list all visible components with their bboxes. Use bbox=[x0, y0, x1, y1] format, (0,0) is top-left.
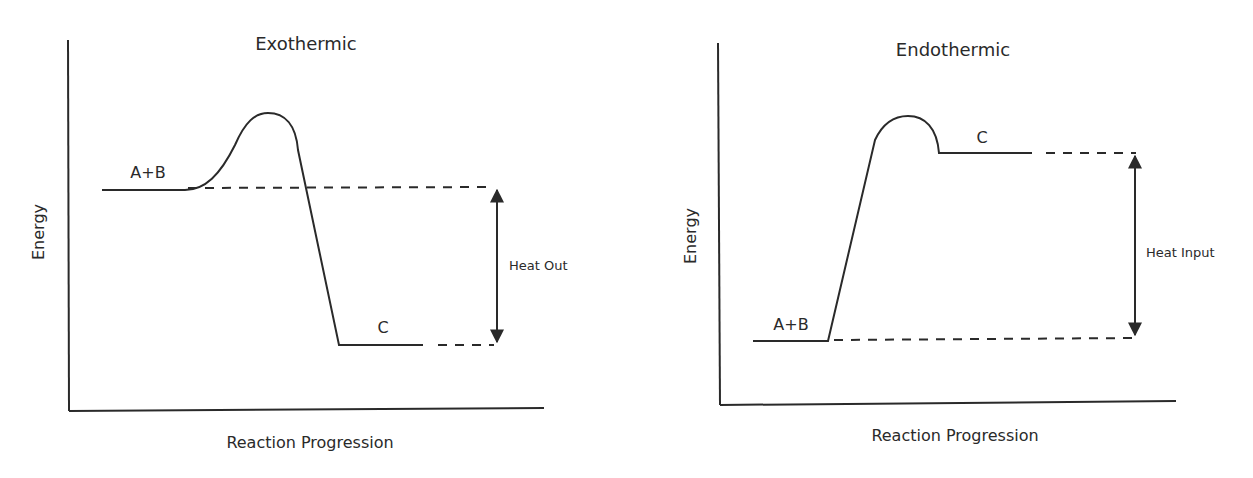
endothermic-y-axis-label: Energy bbox=[681, 208, 700, 264]
endothermic-energy-curve bbox=[753, 116, 1032, 341]
exothermic-products-label: C bbox=[377, 318, 388, 337]
exothermic-reactants-label: A+B bbox=[130, 163, 165, 182]
endothermic-reactant-level-line bbox=[834, 338, 1136, 340]
exothermic-x-axis-label: Reaction Progression bbox=[226, 433, 393, 452]
exothermic-y-axis bbox=[68, 40, 69, 411]
endothermic-heat-label: Heat Input bbox=[1146, 245, 1215, 260]
exothermic-title: Exothermic bbox=[255, 33, 357, 54]
exothermic-energy-curve bbox=[102, 113, 423, 345]
exothermic-diagram: Exothermic Energy Reaction Progression A… bbox=[29, 33, 568, 452]
energy-diagrams: Exothermic Energy Reaction Progression A… bbox=[0, 0, 1253, 478]
endothermic-diagram: Endothermic Energy Reaction Progression … bbox=[681, 39, 1215, 445]
exothermic-x-axis bbox=[69, 408, 544, 411]
exothermic-reactant-level-line bbox=[188, 187, 494, 188]
endothermic-x-axis-label: Reaction Progression bbox=[871, 426, 1038, 445]
endothermic-title: Endothermic bbox=[896, 39, 1010, 60]
endothermic-x-axis bbox=[720, 401, 1176, 405]
endothermic-reactants-label: A+B bbox=[773, 315, 808, 334]
exothermic-y-axis-label: Energy bbox=[29, 204, 48, 260]
endothermic-products-label: C bbox=[976, 128, 987, 147]
endothermic-y-axis bbox=[718, 43, 720, 405]
exothermic-heat-label: Heat Out bbox=[509, 258, 568, 273]
